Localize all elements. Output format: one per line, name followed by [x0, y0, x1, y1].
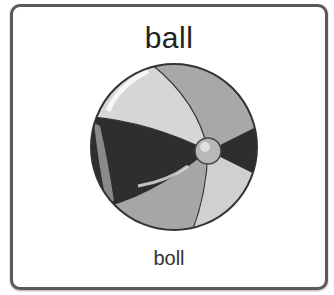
- phonetic-label: boll: [13, 247, 325, 270]
- word-card[interactable]: ball: [10, 4, 328, 290]
- word-title: ball: [13, 21, 325, 55]
- beach-ball-icon: [88, 61, 260, 233]
